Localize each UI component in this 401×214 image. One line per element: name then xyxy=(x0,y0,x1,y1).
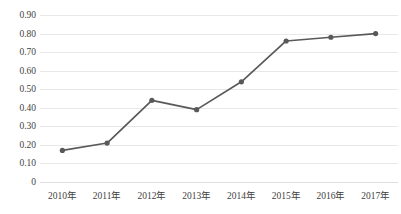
gridline xyxy=(40,182,398,183)
data-point-marker xyxy=(328,35,333,40)
data-point-marker xyxy=(149,98,154,103)
y-axis-tick-label: 0.40 xyxy=(19,103,36,113)
x-axis-tick-label: 2016年 xyxy=(316,188,345,202)
x-axis-tick-label: 2012年 xyxy=(137,188,166,202)
x-axis-tick-label: 2015年 xyxy=(272,188,301,202)
x-axis-tick-label: 2010年 xyxy=(48,188,77,202)
data-point-marker xyxy=(284,38,289,43)
x-axis-labels: 2010年2011年2012年2013年2014年2015年2016年2017年 xyxy=(40,188,398,208)
x-axis-tick-label: 2011年 xyxy=(93,188,122,202)
y-axis-tick-label: 0.50 xyxy=(19,84,36,94)
data-point-marker xyxy=(194,107,199,112)
plot-area xyxy=(40,15,398,182)
data-point-marker xyxy=(60,148,65,153)
y-axis-tick-label: 0.70 xyxy=(19,47,36,57)
x-axis-tick-label: 2014年 xyxy=(227,188,256,202)
x-axis-tick-label: 2017年 xyxy=(361,188,390,202)
x-axis-tick-label: 2013年 xyxy=(182,188,211,202)
y-axis-tick-label: 0 xyxy=(31,177,36,187)
y-axis-tick-label: 0.90 xyxy=(19,10,36,20)
line-chart: 0.900.800.700.600.500.400.300.200.100 20… xyxy=(0,0,401,214)
y-axis-tick-label: 0.80 xyxy=(19,29,36,39)
data-point-marker xyxy=(239,79,244,84)
y-axis-tick-label: 0.60 xyxy=(19,66,36,76)
y-axis-tick-label: 0.10 xyxy=(19,158,36,168)
data-point-marker xyxy=(373,31,378,36)
series-line xyxy=(62,34,375,151)
y-axis-labels: 0.900.800.700.600.500.400.300.200.100 xyxy=(0,15,36,182)
y-axis-tick-label: 0.30 xyxy=(19,121,36,131)
data-point-marker xyxy=(105,140,110,145)
y-axis-tick-label: 0.20 xyxy=(19,140,36,150)
series-layer xyxy=(40,15,398,182)
